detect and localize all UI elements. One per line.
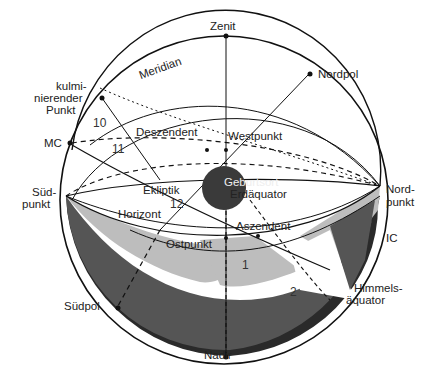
label-kulminierender-3: Punkt bbox=[46, 104, 75, 116]
label-kulminierender-1: kulmi- bbox=[56, 80, 87, 92]
label-westpunkt: Westpunkt bbox=[228, 130, 282, 142]
label-nadir: Nadir bbox=[204, 349, 231, 361]
label-mc: MC bbox=[44, 137, 62, 149]
label-nordpunkt-2: punkt bbox=[386, 196, 414, 208]
label-suedpol: Südpol bbox=[64, 300, 100, 312]
label-ostpunkt: Ostpunkt bbox=[166, 238, 212, 250]
label-zenit: Zenit bbox=[210, 20, 236, 32]
label-suedpunkt-1: Süd- bbox=[32, 186, 56, 198]
label-deszendent: Deszendent bbox=[136, 126, 197, 138]
house-12: 12 bbox=[170, 197, 183, 211]
label-nordpol: Nordpol bbox=[318, 68, 358, 80]
label-erdaequator: Erdäquator bbox=[230, 188, 287, 200]
label-aszendent: Aszendent bbox=[236, 220, 290, 232]
house-2: 2 bbox=[290, 285, 297, 299]
house-1: 1 bbox=[242, 258, 249, 272]
label-himmelsaequator-1: Himmels- bbox=[354, 282, 403, 294]
house-11: 11 bbox=[112, 142, 124, 156]
celestial-sphere-diagram bbox=[0, 0, 442, 379]
label-kulminierender-2: nierender bbox=[34, 92, 83, 104]
label-himmelsaequator-2: äquator bbox=[346, 294, 385, 306]
label-ic: IC bbox=[386, 232, 398, 244]
label-geburtsort: Geburtsort bbox=[224, 176, 278, 188]
label-horizont: Horizont bbox=[118, 208, 161, 220]
house-10: 10 bbox=[93, 116, 106, 130]
label-nordpunkt-1: Nord- bbox=[386, 183, 415, 195]
label-suedpunkt-2: punkt bbox=[22, 198, 50, 210]
label-ekliptik: Ekliptik bbox=[143, 184, 179, 196]
